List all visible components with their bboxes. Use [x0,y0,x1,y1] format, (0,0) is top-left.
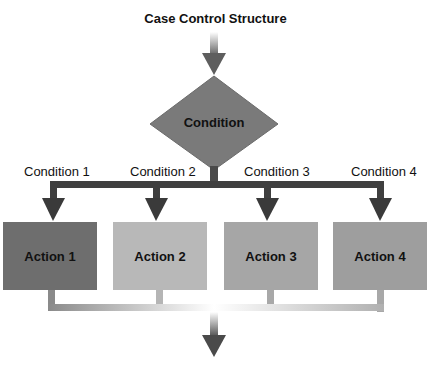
exit-arrow-icon [202,312,226,357]
action-box-4: Action 4 [333,222,427,290]
condition-label-4: Condition 4 [351,164,417,179]
case-control-diagram: Case Control Structure Condition Conditi… [0,0,431,365]
merge-bar-left [48,304,214,311]
diagram-title: Case Control Structure [0,11,431,26]
decision-label: Condition [150,115,278,130]
merge-bar-right [214,304,384,311]
action-box-2: Action 2 [113,222,207,290]
diagram-graphics [0,0,431,365]
distribution-bar [50,181,384,188]
action-box-1: Action 1 [3,222,97,290]
action-label: Action 1 [24,249,75,264]
entry-arrow-icon [202,32,226,75]
action-label: Action 4 [354,249,405,264]
action-label: Action 3 [245,249,296,264]
condition-label-2: Condition 2 [130,164,196,179]
action-label: Action 2 [134,249,185,264]
action-box-3: Action 3 [224,222,318,290]
condition-label-1: Condition 1 [24,164,90,179]
condition-label-3: Condition 3 [244,164,310,179]
